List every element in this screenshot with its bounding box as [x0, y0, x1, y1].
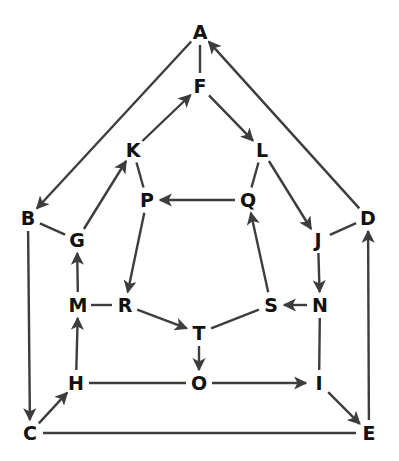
node-i: I — [315, 372, 322, 394]
node-o: O — [191, 372, 207, 394]
edge-P-R-arrow — [128, 213, 145, 293]
edge-H-M-arrow — [76, 318, 77, 370]
edge-J-N-arrow — [318, 253, 319, 292]
edge-N-I-line — [319, 318, 320, 370]
node-g: G — [69, 229, 85, 251]
node-k: K — [126, 139, 142, 161]
node-q: Q — [240, 189, 256, 211]
node-s: S — [264, 294, 278, 316]
edge-M-G-arrow — [77, 253, 78, 292]
edge-F-L-arrow — [209, 95, 253, 140]
edge-S-Q-arrow — [251, 213, 268, 293]
edge-C-H-arrow — [39, 393, 67, 424]
node-r: R — [118, 294, 133, 316]
node-d: D — [360, 207, 376, 229]
edge-G-K-arrow — [84, 161, 126, 229]
edge-E-D-arrow — [368, 231, 369, 420]
nodes-layer: AFKLPQBGJDMRSNTHOICE — [21, 21, 376, 444]
node-t: T — [193, 322, 206, 344]
node-f: F — [194, 75, 207, 97]
node-a: A — [193, 21, 208, 43]
node-b: B — [21, 207, 35, 229]
node-e: E — [363, 422, 376, 444]
graph-diagram: AFKLPQBGJDMRSNTHOICE — [0, 0, 399, 461]
edge-B-G-line — [40, 223, 65, 234]
node-h: H — [68, 372, 84, 394]
edge-K-P-line — [137, 163, 144, 188]
node-m: M — [69, 294, 88, 316]
edge-I-E-arrow — [328, 392, 360, 424]
edge-L-J-arrow — [269, 161, 311, 229]
node-p: P — [140, 189, 154, 211]
edge-J-D-line — [330, 223, 356, 235]
edge-L-Q-line — [252, 163, 259, 188]
edge-R-T-arrow — [137, 310, 187, 329]
node-c: C — [23, 422, 37, 444]
node-j: J — [312, 229, 321, 251]
edge-T-S-line — [211, 310, 259, 329]
node-n: N — [312, 294, 328, 316]
edge-B-C-arrow — [28, 231, 30, 420]
node-l: L — [256, 139, 268, 161]
edge-A-B-arrow — [37, 42, 191, 209]
edge-K-F-arrow — [142, 95, 190, 141]
